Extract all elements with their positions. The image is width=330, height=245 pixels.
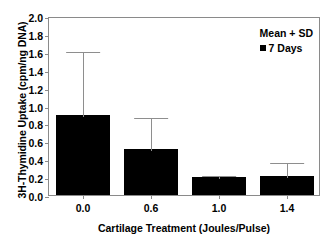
y-tick-label: 1.2 xyxy=(19,84,43,96)
y-tick-label: 1.0 xyxy=(19,102,43,114)
y-tick-label: 2.0 xyxy=(19,12,43,24)
bar xyxy=(56,115,110,195)
chart-figure: 3H-Thymidine Uptake (cpm/ng DNA) 0.00.20… xyxy=(0,0,330,245)
x-tick-label: 1.0 xyxy=(212,202,227,214)
error-bar-stem xyxy=(83,52,84,117)
error-bar-stem xyxy=(287,163,288,178)
x-tick-mark xyxy=(83,195,84,199)
y-tick-label: 0.8 xyxy=(19,119,43,131)
y-tick-label: 1.4 xyxy=(19,66,43,78)
y-tick-label: 0.0 xyxy=(19,191,43,203)
error-bar-cap xyxy=(202,176,236,177)
bar xyxy=(192,177,246,195)
legend-swatch-icon xyxy=(260,45,266,51)
y-tick-label: 0.4 xyxy=(19,155,43,167)
error-bar-cap xyxy=(66,52,100,53)
error-bar-cap xyxy=(134,118,168,119)
y-tick-mark xyxy=(45,54,49,55)
y-tick-mark xyxy=(45,179,49,180)
legend-item-label: 7 Days xyxy=(269,42,303,54)
legend-note: Mean + SD xyxy=(260,26,313,41)
y-tick-mark xyxy=(45,143,49,144)
x-tick-label: 0.6 xyxy=(144,202,159,214)
y-tick-label: 1.6 xyxy=(19,48,43,60)
y-tick-mark xyxy=(45,197,49,198)
legend-item-7-days: 7 Days xyxy=(260,41,313,56)
legend: Mean + SD 7 Days xyxy=(260,26,313,56)
y-tick-mark xyxy=(45,72,49,73)
y-tick-label: 1.8 xyxy=(19,30,43,42)
y-tick-label: 0.6 xyxy=(19,137,43,149)
y-tick-mark xyxy=(45,90,49,91)
x-tick-label: 0.0 xyxy=(76,202,91,214)
x-tick-label: 1.4 xyxy=(280,202,295,214)
y-tick-mark xyxy=(45,108,49,109)
error-bar-cap xyxy=(270,163,304,164)
error-bar-stem xyxy=(151,118,152,151)
plot-area: 0.00.20.40.60.81.01.21.41.61.82.0 0.00.6… xyxy=(48,17,320,196)
x-axis-title: Cartilage Treatment (Joules/Pulse) xyxy=(48,222,320,234)
y-tick-mark xyxy=(45,125,49,126)
y-tick-mark xyxy=(45,161,49,162)
x-tick-mark xyxy=(219,195,220,199)
y-tick-label: 0.2 xyxy=(19,173,43,185)
bar xyxy=(124,149,178,195)
x-tick-mark xyxy=(287,195,288,199)
x-tick-mark xyxy=(151,195,152,199)
y-tick-mark xyxy=(45,36,49,37)
bar xyxy=(260,176,314,195)
y-tick-mark xyxy=(45,18,49,19)
